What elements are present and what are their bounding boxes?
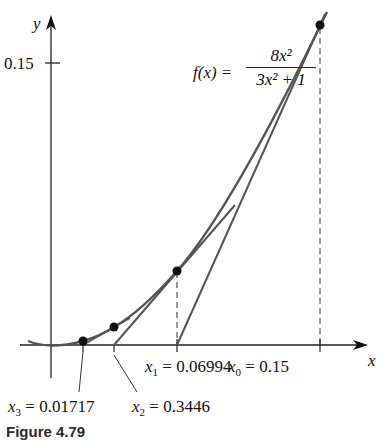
leader-x2 [114, 355, 137, 392]
point-x2 [110, 323, 119, 332]
y-tick-label: 0.15 [4, 55, 34, 72]
function-fraction: 8x² 3x² + 1 [246, 47, 316, 88]
x-axis-label: x [368, 352, 376, 369]
label-x3: x3 = 0.01717 [8, 398, 94, 418]
leader-x3 [79, 352, 83, 392]
function-label: f(x) = [193, 64, 232, 81]
point-x3 [79, 337, 88, 346]
function-numerator: 8x² [246, 47, 316, 67]
point-x1 [173, 267, 182, 276]
figure-caption: Figure 4.79 [6, 423, 85, 440]
label-x2: x2 = 0.3446 [132, 398, 210, 418]
label-x1: x1 = 0.06994 [145, 358, 231, 378]
tangent-at-x1 [114, 205, 235, 345]
function-denominator: 3x² + 1 [246, 67, 316, 88]
tangent-at-x2 [83, 318, 130, 345]
point-x0 [316, 21, 325, 30]
y-axis-label: y [33, 15, 41, 32]
label-x0: x0 = 0.15 [228, 358, 289, 378]
